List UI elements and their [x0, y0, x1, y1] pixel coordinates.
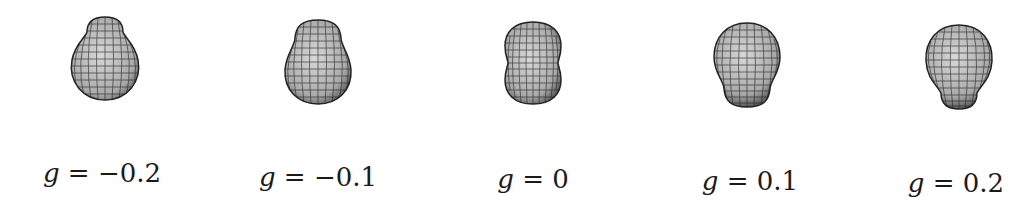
equals-sign: = — [68, 158, 90, 188]
equals-sign: = — [727, 166, 749, 196]
parameter-value: 0.1 — [757, 166, 798, 196]
label-g-0.1: g = 0.1 — [702, 166, 798, 196]
variable-name: g — [908, 168, 925, 198]
label-g-neg-0.2: g = −0.2 — [43, 158, 161, 188]
figure: g = −0.2 g = −0.1 g = 0 g = 0.1 g = 0.2 — [0, 0, 1033, 202]
variable-name: g — [259, 162, 276, 192]
shape-g-neg-0.2 — [65, 12, 145, 107]
parameter-value: 0 — [552, 164, 569, 194]
equals-sign: = — [522, 164, 544, 194]
shape-g-0.2 — [919, 21, 999, 113]
shape-g-0.1 — [709, 19, 785, 111]
variable-name: g — [43, 158, 60, 188]
equals-sign: = — [284, 162, 306, 192]
variable-name: g — [702, 166, 719, 196]
parameter-value: 0.2 — [963, 168, 1004, 198]
label-g-0: g = 0 — [497, 164, 569, 194]
parameter-value: −0.2 — [98, 158, 161, 188]
shape-g-0 — [500, 18, 566, 108]
shape-g-neg-0.1 — [280, 16, 356, 108]
variable-name: g — [497, 164, 514, 194]
label-g-neg-0.1: g = −0.1 — [259, 162, 377, 192]
equals-sign: = — [933, 168, 955, 198]
label-g-0.2: g = 0.2 — [908, 168, 1004, 198]
parameter-value: −0.1 — [314, 162, 377, 192]
